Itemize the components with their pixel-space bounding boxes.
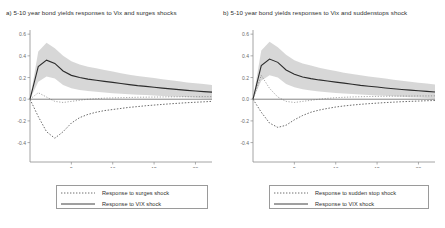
legend-label: Response to VIX shock xyxy=(102,201,161,207)
legend-label: Response to sudden stop shock xyxy=(315,190,396,196)
panel-a-plot: -0.4-0.20.00.20.40.65101520 xyxy=(0,22,222,168)
svg-text:0.0: 0.0 xyxy=(242,96,249,102)
panel-a-legend: Response to surges shock Response to VIX… xyxy=(56,185,208,209)
legend-item: Response to VIX shock xyxy=(270,198,428,209)
figure-root: a) 5-10 year bond yields responses to Vi… xyxy=(0,0,445,228)
svg-text:20: 20 xyxy=(416,166,422,169)
panel-a: a) 5-10 year bond yields responses to Vi… xyxy=(0,0,222,228)
legend-label: Response to surges shock xyxy=(102,190,169,196)
svg-text:0.6: 0.6 xyxy=(19,31,26,37)
svg-text:-0.4: -0.4 xyxy=(17,140,26,146)
legend-label: Response to VIX shock xyxy=(315,201,374,207)
legend-swatch-dotted xyxy=(61,190,95,196)
svg-text:10: 10 xyxy=(333,166,339,169)
svg-text:0.2: 0.2 xyxy=(19,75,26,81)
panel-b-title: b) 5-10 year bond yields responses to Vi… xyxy=(223,9,441,17)
svg-text:-0.2: -0.2 xyxy=(17,118,26,124)
panel-a-axes: -0.4-0.20.00.20.40.65101520 xyxy=(0,22,222,168)
panel-b-legend: Response to sudden stop shock Response t… xyxy=(269,185,429,209)
svg-text:0.4: 0.4 xyxy=(19,53,26,59)
legend-swatch-dotted xyxy=(274,190,308,196)
legend-item: Response to sudden stop shock xyxy=(270,187,428,198)
svg-text:-0.4: -0.4 xyxy=(240,140,249,146)
legend-swatch-solid xyxy=(274,201,308,207)
panel-b-plot: -0.4-0.20.00.20.40.65101520 xyxy=(223,22,445,168)
svg-text:0.4: 0.4 xyxy=(242,53,249,59)
svg-text:5: 5 xyxy=(293,166,296,169)
panel-a-title: a) 5-10 year bond yields responses to Vi… xyxy=(6,9,218,17)
svg-text:0.6: 0.6 xyxy=(242,31,249,37)
svg-text:-0.2: -0.2 xyxy=(240,118,249,124)
legend-swatch-solid xyxy=(61,201,95,207)
svg-text:0.2: 0.2 xyxy=(242,75,249,81)
svg-text:0.0: 0.0 xyxy=(19,96,26,102)
svg-text:15: 15 xyxy=(374,166,380,169)
svg-text:20: 20 xyxy=(193,166,199,169)
svg-text:5: 5 xyxy=(70,166,73,169)
svg-text:15: 15 xyxy=(151,166,157,169)
panel-b: b) 5-10 year bond yields responses to Vi… xyxy=(223,0,445,228)
legend-item: Response to surges shock xyxy=(57,187,207,198)
legend-item: Response to VIX shock xyxy=(57,198,207,209)
svg-text:10: 10 xyxy=(110,166,116,169)
panel-b-axes: -0.4-0.20.00.20.40.65101520 xyxy=(223,22,445,168)
